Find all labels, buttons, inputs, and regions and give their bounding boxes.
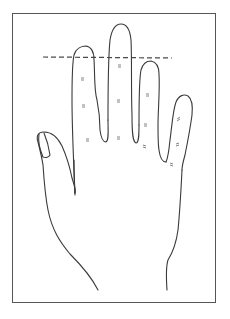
crease-mark <box>146 94 149 96</box>
crease-mark <box>144 124 147 126</box>
reference-dashed-line <box>43 57 172 58</box>
little-finger-outline <box>166 95 192 170</box>
index-base-line <box>74 160 75 193</box>
palm-right-edge <box>166 170 182 290</box>
crease-mark <box>117 100 120 102</box>
crease-marks <box>81 65 180 166</box>
crease-mark <box>82 105 85 107</box>
crease-mark <box>143 145 146 148</box>
hand-diagram <box>0 0 230 319</box>
middle-finger-outline <box>108 24 139 143</box>
crease-mark <box>118 65 121 67</box>
crease-mark <box>81 78 84 80</box>
crease-mark <box>170 163 173 166</box>
crease-mark <box>176 143 179 146</box>
crease-mark <box>86 139 89 141</box>
crease-mark <box>177 117 180 121</box>
thumb-outline <box>37 132 98 290</box>
hand-outline <box>37 24 192 290</box>
crease-mark <box>117 137 120 139</box>
index-finger-outline <box>72 46 108 195</box>
